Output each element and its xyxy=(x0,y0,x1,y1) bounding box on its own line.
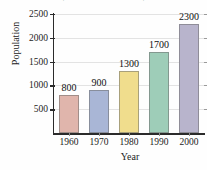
x-axis-tick xyxy=(189,133,190,136)
x-axis-tick-label: 1970 xyxy=(90,137,109,147)
x-axis-tick-label: 1980 xyxy=(120,137,139,147)
y-axis-tick xyxy=(50,14,55,15)
y-axis-tick-right xyxy=(204,109,207,110)
x-axis-tick xyxy=(159,133,160,136)
y-axis-tick xyxy=(50,38,55,39)
x-axis-tick xyxy=(69,133,70,136)
plot-area: 5001000150020002500800900130017002300 xyxy=(54,14,204,133)
y-axis-tick-right xyxy=(204,85,207,86)
y-axis-tick xyxy=(50,85,55,86)
bar-value-label: 900 xyxy=(92,77,107,88)
bar xyxy=(59,95,79,133)
y-axis-title: Population xyxy=(10,5,21,83)
bar-chart-figure: (in millions of residents) Population Ye… xyxy=(0,0,207,170)
y-axis-tick-label: 500 xyxy=(34,104,48,114)
x-axis-tick xyxy=(99,133,100,136)
y-axis-tick-right xyxy=(204,14,207,15)
chart-title: (in millions of residents) xyxy=(0,0,207,1)
x-axis-tick xyxy=(129,133,130,136)
x-axis-tick-label: 2000 xyxy=(180,137,199,147)
y-axis-tick xyxy=(50,109,55,110)
y-axis-tick-label: 1500 xyxy=(29,57,48,67)
y-axis-tick-label: 2000 xyxy=(29,33,48,43)
bar xyxy=(89,90,109,133)
x-axis-tick-label: 1960 xyxy=(60,137,79,147)
bar-value-label: 1300 xyxy=(119,58,139,69)
bar-value-label: 800 xyxy=(62,82,77,93)
bar-value-label: 2300 xyxy=(179,11,199,22)
y-axis-tick-right xyxy=(204,62,207,63)
x-axis-title: Year xyxy=(53,151,207,162)
bar xyxy=(179,24,199,133)
bar-value-label: 1700 xyxy=(149,39,169,50)
x-axis-tick-label: 1990 xyxy=(150,137,169,147)
bar xyxy=(149,52,169,133)
y-axis-tick-label: 1000 xyxy=(29,80,48,90)
y-axis-tick xyxy=(50,62,55,63)
y-axis-tick-label: 2500 xyxy=(29,9,48,19)
y-axis-tick-right xyxy=(204,38,207,39)
bar xyxy=(119,71,139,133)
